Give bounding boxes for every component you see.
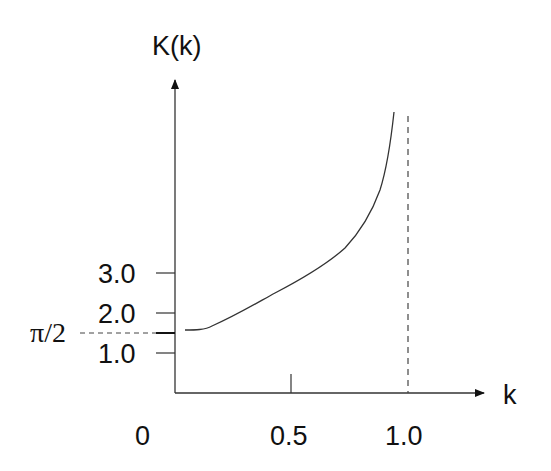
x-tick-label-0: 0: [135, 421, 150, 451]
y-axis-label: K(k): [152, 31, 202, 61]
x-axis-label: k: [503, 380, 517, 410]
y-tick-label-2: 2.0: [98, 299, 136, 329]
y-tick-label-pi2: π/2: [30, 317, 66, 348]
y-tick-label-1: 1.0: [98, 339, 136, 369]
x-tick-label-1.0: 1.0: [385, 421, 423, 451]
y-tick-label-3: 3.0: [98, 259, 136, 289]
elliptic-integral-chart: K(k) k 3.0 2.0 1.0 π/2 0 0.5 1.0: [0, 0, 551, 471]
curve-K-of-k: [185, 112, 394, 330]
x-tick-label-0.5: 0.5: [270, 421, 308, 451]
